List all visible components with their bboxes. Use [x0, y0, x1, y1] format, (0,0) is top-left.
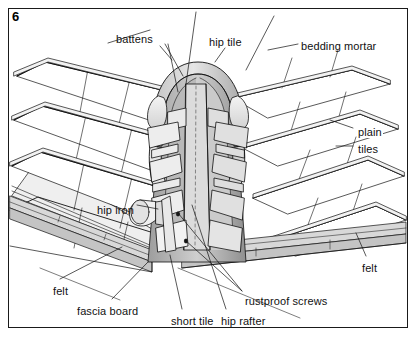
label-rustproof-screws: rustproof screws: [245, 295, 327, 307]
label-felt-left: felt: [53, 285, 68, 297]
label-plain-tiles-line1: plain: [357, 126, 383, 138]
label-bedding-mortar: bedding mortar: [301, 40, 376, 52]
label-hip-iron: hip iron: [97, 204, 134, 216]
label-felt-right: felt: [362, 262, 377, 274]
label-plain-tiles-line2: tiles: [357, 143, 379, 155]
label-hip-tile: hip tile: [209, 36, 242, 48]
label-battens: battens: [116, 33, 153, 45]
figure-container: 6: [0, 0, 418, 338]
label-short-tile: short tile: [171, 315, 214, 327]
label-hip-rafter: hip rafter: [221, 315, 265, 327]
label-fascia-board: fascia board: [77, 305, 138, 317]
figure-number: 6: [12, 10, 19, 23]
